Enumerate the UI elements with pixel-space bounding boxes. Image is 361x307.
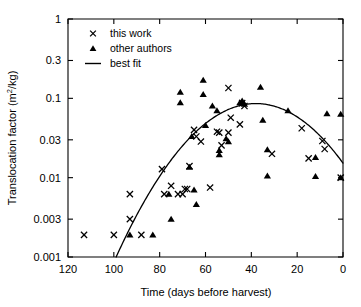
legend-label: this work (110, 27, 152, 39)
y-tick-label: 0.3 (46, 54, 61, 66)
y-tick-label: 0.1 (46, 92, 61, 104)
legend-label: other authors (110, 42, 172, 54)
y-tick-label: 1 (55, 13, 61, 25)
x-tick-label: 60 (199, 263, 211, 275)
x-tick-label: 0 (340, 263, 346, 275)
chart-figure: 120100806040200 0.0010.0030.010.030.10.3… (0, 0, 361, 307)
x-tick-label: 100 (105, 263, 123, 275)
x-tick-label: 20 (291, 263, 303, 275)
x-tick-label: 120 (59, 263, 77, 275)
y-tick-label: 0.001 (33, 251, 61, 263)
x-tick-label: 80 (154, 263, 166, 275)
x-axis-title: Time (days before harvest) (140, 286, 271, 298)
legend-label: best fit (110, 57, 141, 69)
y-tick-label: 0.03 (40, 134, 61, 146)
x-tick-label: 40 (245, 263, 257, 275)
y-tick-label: 0.003 (33, 213, 61, 225)
y-tick-label: 0.01 (40, 172, 61, 184)
translocation-factor-scatter-plot: 120100806040200 0.0010.0030.010.030.10.3… (0, 0, 361, 307)
